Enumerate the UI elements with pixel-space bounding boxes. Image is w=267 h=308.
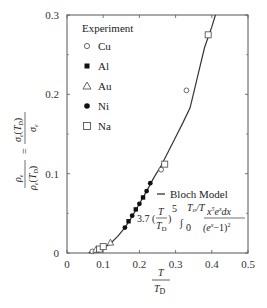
y-tick-label: 0: [54, 247, 60, 259]
data-point-na: [205, 32, 211, 38]
x-tick-label: 0: [64, 258, 70, 270]
x-tick-label: 0.2: [133, 258, 147, 270]
formula-lower-limit: 0: [186, 222, 191, 233]
open-circle-icon: [84, 43, 89, 48]
data-point-al: [134, 207, 138, 211]
data-point-au: [107, 239, 113, 245]
formula-t: T: [158, 206, 165, 217]
y-label-num2: σe(TD): [12, 118, 24, 142]
x-label-t: T: [158, 267, 165, 278]
data-point-al: [141, 195, 145, 199]
data-point-ni: [137, 201, 142, 206]
data-point-ni: [130, 213, 135, 218]
data-point-al: [126, 219, 130, 223]
x-axis-label: T TD: [152, 267, 170, 296]
chart: 00.10.20.30.40.5 00.10.20.3 Experiment C…: [0, 0, 267, 308]
formula-coef: 3.7: [137, 213, 150, 224]
formula-denominator: (ex−1)2: [203, 222, 230, 234]
formula-numerator: x5exdx: [206, 206, 232, 217]
y-label-num1: ρe: [12, 174, 24, 183]
filled-square-icon: [85, 64, 90, 69]
legend: Experiment Cu Al Au Ni Na: [82, 22, 133, 132]
x-tick-label: 0.3: [169, 258, 183, 270]
legend-ni: Ni: [98, 100, 109, 112]
formula-integral: ∫: [179, 217, 184, 229]
data-point-ni: [148, 181, 153, 186]
open-square-icon: [84, 123, 91, 130]
open-triangle-icon: [83, 82, 91, 89]
y-axis-label: ρe ρe(TD) = σe(TD) σe: [12, 112, 39, 191]
data-point-cu: [184, 88, 189, 93]
legend-na: Na: [98, 120, 111, 132]
y-tick-labels: 00.10.20.3: [45, 9, 59, 259]
plot-frame: [67, 15, 248, 253]
y-tick-label: 0.1: [45, 168, 59, 180]
filled-circle-icon: [84, 103, 90, 109]
formula-paren-close: ): [168, 213, 171, 225]
legend-au: Au: [98, 80, 112, 92]
data-point-ni: [123, 225, 128, 230]
y-label-den1: ρe(TD): [27, 166, 39, 191]
x-tick-label: 0.4: [205, 258, 219, 270]
bloch-formula: 3.7 ( T TD ) 5 ∫ TD/T 0 x5exdx (ex−1)2: [137, 202, 245, 234]
legend-al: Al: [98, 60, 109, 72]
y-tick-label: 0.2: [45, 88, 59, 100]
data-point-na: [162, 161, 168, 167]
y-label-equals: =: [19, 148, 30, 154]
y-tick-label: 0.3: [45, 9, 59, 21]
x-tick-label: 0.1: [96, 258, 110, 270]
axis-ticks: [67, 15, 248, 253]
x-tick-label: 0.5: [241, 258, 255, 270]
model-label: Bloch Model: [170, 188, 228, 200]
data-point-ni: [144, 189, 149, 194]
legend-cu: Cu: [98, 40, 111, 52]
formula-td: TD: [156, 220, 167, 233]
y-label-den2: σe: [27, 124, 39, 132]
x-label-td: TD: [154, 283, 166, 296]
data-point-cu: [159, 167, 164, 172]
legend-title: Experiment: [82, 22, 133, 34]
formula-power: 5: [172, 203, 177, 214]
data-point-na: [100, 244, 106, 250]
formula-upper-limit: TD/T: [187, 202, 206, 213]
